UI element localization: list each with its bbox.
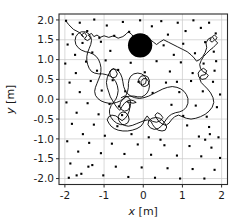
landmark-point (76, 174, 78, 176)
landmark-point (115, 166, 117, 168)
landmark-point (177, 22, 179, 24)
landmark-point (102, 174, 104, 176)
y-tick-label: -1.5 (34, 152, 55, 164)
landmark-point (74, 54, 76, 56)
start-blob (128, 33, 152, 57)
landmark-point (151, 25, 153, 27)
y-tick-label: -0.5 (34, 113, 55, 125)
landmark-point (122, 21, 124, 23)
landmark-point (214, 169, 216, 171)
y-tick-label: -1.0 (34, 133, 55, 145)
y-tick-label: 0.0 (37, 93, 54, 105)
landmark-point (105, 59, 107, 61)
x-axis-label: x [m] (128, 205, 158, 218)
landmark-point (79, 22, 81, 24)
landmark-point (139, 19, 141, 21)
landmark-point (173, 54, 175, 56)
landmark-point (156, 60, 158, 62)
landmark-point (178, 91, 180, 93)
landmark-point (69, 162, 71, 164)
x-tick-label: 1 (179, 189, 186, 201)
landmark-point (106, 24, 108, 26)
landmark-point (128, 31, 130, 33)
landmark-point (90, 80, 92, 82)
landmark-point (206, 116, 208, 118)
landmark-point (71, 123, 73, 125)
landmark-point (170, 104, 172, 106)
landmark-point (217, 136, 219, 138)
landmark-point (195, 105, 197, 107)
landmark-point (192, 168, 194, 170)
landmark-point (208, 126, 210, 128)
landmark-point (219, 93, 221, 95)
landmark-point (100, 41, 102, 43)
landmark-point (154, 177, 156, 179)
y-tick-label: 1.0 (37, 53, 54, 65)
landmark-point (68, 177, 70, 179)
landmark-point (204, 139, 206, 141)
landmark-point (200, 155, 202, 157)
landmark-point (93, 19, 95, 21)
landmark-point (91, 51, 93, 53)
x-tick-label: -1 (99, 189, 109, 201)
landmark-point (109, 103, 111, 105)
landmark-point (204, 41, 206, 43)
landmark-point (87, 166, 89, 168)
landmark-point (79, 91, 81, 93)
landmark-point (93, 124, 95, 126)
landmark-point (117, 69, 119, 71)
landmark-point (150, 154, 152, 156)
landmark-point (200, 27, 202, 29)
landmark-point (159, 139, 161, 141)
landmark-point (180, 61, 182, 63)
landmark-point (66, 140, 68, 142)
landmark-point (190, 80, 192, 82)
landmark-point (182, 43, 184, 45)
landmark-point (198, 135, 200, 137)
landmark-point (85, 61, 87, 63)
y-axis-label: y [m] (4, 85, 17, 115)
landmark-point (87, 102, 89, 104)
landmark-point (113, 35, 115, 37)
landmark-point (130, 133, 132, 135)
landmark-point (111, 143, 113, 145)
landmark-point (112, 79, 114, 81)
landmark-point (141, 166, 143, 168)
landmark-point (77, 151, 79, 153)
landmark-point (145, 51, 147, 53)
landmark-point (80, 173, 82, 175)
landmark-point (75, 72, 77, 74)
landmark-point (219, 157, 221, 159)
landmark-point (91, 164, 93, 166)
landmark-point (65, 101, 67, 103)
landmark-point (203, 63, 205, 65)
landmark-point (185, 30, 187, 32)
landmark-point (215, 60, 217, 62)
landmark-point (124, 90, 126, 92)
landmark-point (192, 72, 194, 74)
landmark-point (210, 147, 212, 149)
landmark-point (212, 81, 214, 83)
landmark-point (116, 125, 118, 127)
y-tick-label: -2.0 (34, 172, 55, 184)
landmark-point (69, 82, 71, 84)
landmark-point (118, 105, 120, 107)
landmark-point (176, 155, 178, 157)
landmark-point (208, 22, 210, 24)
landmark-point (64, 63, 66, 65)
landmark-point (148, 136, 150, 138)
y-tick-label: 0.5 (37, 73, 54, 85)
landmark-point (100, 152, 102, 154)
landmark-point (98, 37, 100, 39)
landmark-point (182, 115, 184, 117)
landmark-point (130, 62, 132, 64)
scatter-trajectory-plot: -2.0-1.5-1.0-0.50.00.51.01.52.0-2-1012x … (0, 0, 239, 224)
x-tick-label: 0 (140, 189, 147, 201)
landmark-point (76, 112, 78, 114)
landmark-point (101, 89, 103, 91)
landmark-point (96, 70, 98, 72)
landmark-point (209, 133, 211, 135)
y-tick-label: 2.0 (37, 14, 54, 26)
landmark-point (166, 167, 168, 169)
landmark-point (123, 153, 125, 155)
